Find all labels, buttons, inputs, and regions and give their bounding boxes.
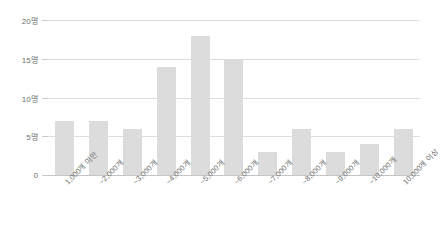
bar-slot xyxy=(149,20,183,175)
bar[interactable] xyxy=(55,121,74,175)
plot-area xyxy=(48,20,420,175)
bar-slot xyxy=(386,20,420,175)
x-slot: ~2,000개 xyxy=(82,177,116,235)
y-axis-tick-label: 15명 xyxy=(22,53,38,64)
bar-slot xyxy=(116,20,150,175)
bar-slot xyxy=(48,20,82,175)
x-slot: ~5,000개 xyxy=(183,177,217,235)
x-slot: 10,000개 이상 xyxy=(386,177,420,235)
x-axis: 1,000개 미만~2,000개~3,000개~4,000개~5,000개~6,… xyxy=(48,177,420,235)
bar[interactable] xyxy=(123,129,142,176)
x-slot: ~8,000개 xyxy=(285,177,319,235)
bar-slot xyxy=(217,20,251,175)
bar-slot xyxy=(183,20,217,175)
x-slot: ~10,000개 xyxy=(352,177,386,235)
bar[interactable] xyxy=(191,36,210,176)
y-axis-tick-label: 20명 xyxy=(22,15,38,26)
bar[interactable] xyxy=(89,121,108,175)
x-slot: ~7,000개 xyxy=(251,177,285,235)
bar[interactable] xyxy=(394,129,413,176)
bar-slot xyxy=(82,20,116,175)
x-slot: ~3,000개 xyxy=(116,177,150,235)
x-slot: ~4,000개 xyxy=(149,177,183,235)
x-slot: ~9,000개 xyxy=(319,177,353,235)
bar[interactable] xyxy=(157,67,176,176)
bar-slot xyxy=(319,20,353,175)
y-axis-tick-label: 0 xyxy=(33,171,38,180)
x-slot: ~6,000개 xyxy=(217,177,251,235)
bar-slot xyxy=(285,20,319,175)
bar-slot xyxy=(251,20,285,175)
bar-slot xyxy=(352,20,386,175)
bar[interactable] xyxy=(224,59,243,175)
bar-series xyxy=(48,20,420,175)
bar[interactable] xyxy=(292,129,311,176)
y-axis-tick-label: 10명 xyxy=(22,92,38,103)
y-axis: 05명10명15명20명 xyxy=(0,20,44,175)
x-slot: 1,000개 미만 xyxy=(48,177,82,235)
y-axis-tick-label: 5명 xyxy=(26,131,38,142)
